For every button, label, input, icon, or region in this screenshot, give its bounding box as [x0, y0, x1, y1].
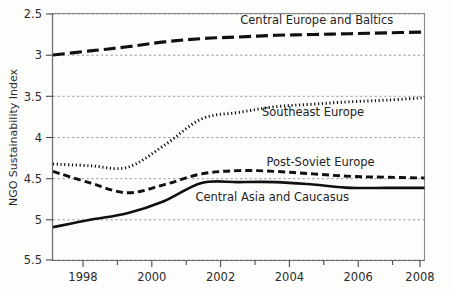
y-tick-label: 3 — [35, 48, 42, 62]
y-tick-label: 2.5 — [24, 7, 42, 21]
series-label-southeast-europe: Southeast Europe — [262, 105, 364, 119]
chart-figure: 2.5 3 3.5 4 4.5 5 5.5 NGO Sustainability… — [0, 0, 451, 290]
x-tick-label: 2002 — [206, 270, 235, 284]
chart-svg: 2.5 3 3.5 4 4.5 5 5.5 NGO Sustainability… — [0, 0, 451, 290]
y-tick-label: 5 — [35, 213, 42, 227]
y-tick-label: 4.5 — [24, 172, 42, 186]
series-label-post-soviet-europe: Post-Soviet Europe — [266, 155, 374, 169]
series-label-central-asia-and-caucasus: Central Asia and Caucasus — [195, 190, 349, 204]
x-tick-label: 2006 — [344, 270, 373, 284]
figure-background — [0, 0, 451, 290]
series-label-central-europe-and-baltics: Central Europe and Baltics — [240, 13, 393, 27]
y-axis-title: NGO Sustainability Index — [7, 68, 20, 206]
y-tick-label: 3.5 — [24, 90, 42, 104]
y-tick-label: 5.5 — [24, 253, 42, 267]
x-tick-label: 2000 — [137, 270, 166, 284]
x-tick-label: 1998 — [68, 270, 97, 284]
x-tick-label: 2008 — [405, 270, 434, 284]
x-tick-label: 2004 — [275, 270, 304, 284]
y-tick-label: 4 — [35, 131, 42, 145]
